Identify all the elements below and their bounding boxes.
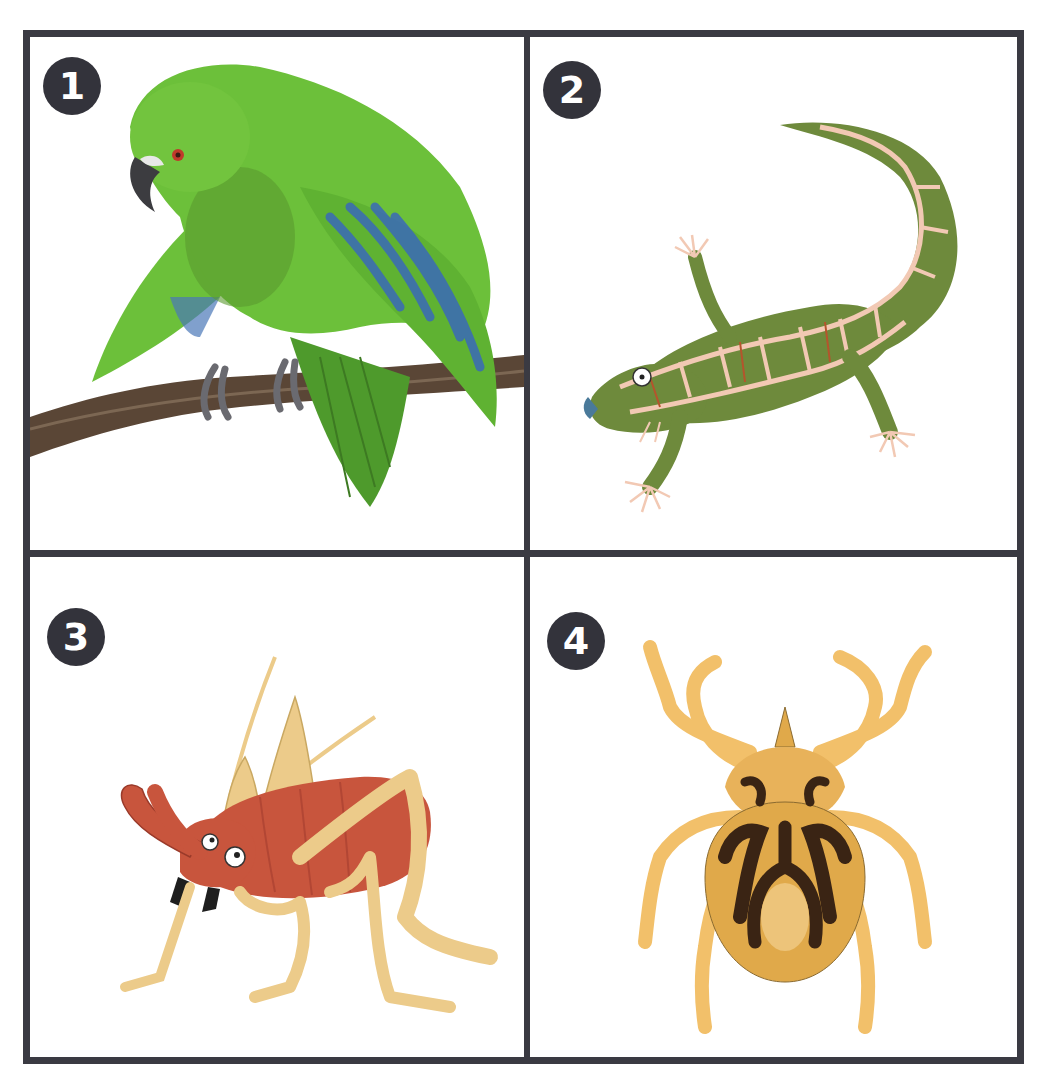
panel-3: 3 [30,557,524,1064]
gecko-illustration [530,37,1024,550]
panel-2: 2 [530,37,1024,550]
panel-1: 1 [30,37,524,550]
parrot-illustration [30,37,524,550]
panel-number-badge: 2 [543,61,601,119]
horizontal-divider [30,550,1017,557]
panel-number-badge: 3 [47,608,105,666]
illustration-grid: 1 2 [23,30,1024,1064]
panel-number-badge: 4 [547,612,605,670]
panel-number-badge: 1 [43,57,101,115]
panel-4: 4 [530,557,1024,1064]
